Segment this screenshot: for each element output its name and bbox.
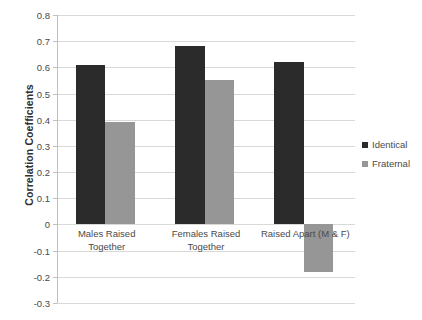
legend-label: Fraternal xyxy=(372,158,410,169)
y-axis-tick-label: 0.3 xyxy=(37,140,50,151)
y-axis-tick-label: -0.2 xyxy=(34,271,50,282)
legend-item-identical[interactable]: Identical xyxy=(362,139,420,150)
y-axis-tick-label: 0.5 xyxy=(37,88,50,99)
bar-chart: Correlation Coefficients 0.80.70.60.50.4… xyxy=(0,0,422,320)
y-axis-title: Correlation Coefficients xyxy=(23,55,35,235)
gridline xyxy=(57,303,355,304)
y-axis-tick-label: 0.8 xyxy=(37,10,50,21)
y-axis-tick-label: -0.1 xyxy=(34,245,50,256)
y-axis-tick-label: 0.1 xyxy=(37,193,50,204)
legend-swatch-icon xyxy=(362,142,368,148)
category-label-0: Males Raised Together xyxy=(57,228,156,268)
y-axis-tick-label: -0.3 xyxy=(34,298,50,309)
bar-fraternal-0 xyxy=(105,122,135,224)
y-axis-tick-label: 0.6 xyxy=(37,62,50,73)
legend: IdenticalFraternal xyxy=(362,139,420,177)
y-axis-tick-label: 0.4 xyxy=(37,114,50,125)
y-axis-tick-label: 0.2 xyxy=(37,167,50,178)
category-label-2: Raised Apart (M & F) xyxy=(256,228,355,268)
y-axis-tick-label: 0.7 xyxy=(37,36,50,47)
bar-identical-0 xyxy=(76,65,106,225)
legend-swatch-icon xyxy=(362,161,368,167)
x-axis-category-labels: Males Raised TogetherFemales Raised Toge… xyxy=(57,228,355,268)
y-axis-tick-label: 0 xyxy=(45,219,50,230)
tick-mark xyxy=(53,303,57,304)
legend-item-fraternal[interactable]: Fraternal xyxy=(362,158,420,169)
legend-label: Identical xyxy=(372,139,407,150)
bar-fraternal-1 xyxy=(205,80,235,224)
category-label-1: Females Raised Together xyxy=(156,228,255,268)
bar-identical-2 xyxy=(274,62,304,224)
bar-identical-1 xyxy=(175,46,205,224)
